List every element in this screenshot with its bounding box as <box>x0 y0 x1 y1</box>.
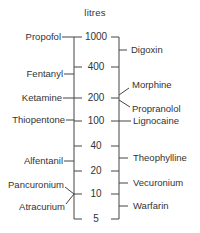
drug-label-digoxin: Digoxin <box>131 45 163 55</box>
tick-value-40: 40 <box>80 141 112 151</box>
drug-label-vecuronium: Vecuronium <box>133 178 183 188</box>
drug-label-morphine: Morphine <box>132 80 172 90</box>
tick-value-100: 100 <box>80 116 112 126</box>
drug-label-theophylline: Theophylline <box>133 153 187 163</box>
drug-label-lignocaine: Lignocaine <box>133 116 179 126</box>
tick-value-5: 5 <box>80 214 112 224</box>
drug-label-propranolol: Propranolol <box>132 104 181 114</box>
drug-label-atracurium: Atracurium <box>19 202 65 212</box>
tick-value-1000: 1000 <box>80 32 112 42</box>
tick-value-10: 10 <box>80 189 112 199</box>
tick-value-200: 200 <box>80 93 112 103</box>
drug-label-fentanyl: Fentanyl <box>27 69 63 79</box>
drug-label-warfarin: Warfarin <box>133 201 169 211</box>
tick-value-400: 400 <box>80 62 112 72</box>
tick-value-20: 20 <box>80 166 112 176</box>
drug-label-alfentanil: Alfentanil <box>24 156 63 166</box>
drug-label-propofol: Propofol <box>26 32 61 42</box>
drug-label-pancuronium: Pancuronium <box>8 180 64 190</box>
drug-label-ketamine: Ketamine <box>22 93 62 103</box>
drug-label-thiopentone: Thiopentone <box>12 115 65 125</box>
